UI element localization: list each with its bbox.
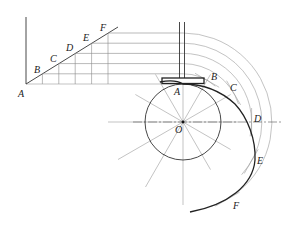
cam-profile-curve — [160, 81, 255, 212]
point-labels: A B C D E F A B C D E F O — [17, 22, 263, 211]
displacement-arc — [183, 53, 252, 136]
radial-line — [183, 122, 211, 170]
profile-label-f: F — [232, 200, 240, 211]
radial-lines — [108, 74, 238, 205]
disp-label-c: C — [50, 53, 57, 64]
radial-line — [183, 95, 231, 123]
profile-label-a: A — [173, 86, 181, 97]
disp-label-f: F — [99, 22, 107, 33]
disp-label-a: A — [17, 88, 25, 99]
disp-label-d: D — [65, 42, 74, 53]
radial-line — [118, 122, 183, 160]
profile-label-d: D — [253, 113, 262, 124]
profile-label-c: C — [230, 82, 237, 93]
radial-line — [183, 122, 231, 150]
radial-line — [135, 95, 183, 123]
tangent-lines — [195, 73, 258, 206]
disp-label-e: E — [82, 32, 89, 43]
center-label-o: O — [175, 124, 182, 135]
disp-label-b: B — [34, 64, 40, 75]
follower — [162, 22, 204, 84]
center-point — [182, 121, 185, 124]
displacement-arc — [183, 43, 262, 175]
profile-label-e: E — [256, 155, 263, 166]
displacement-line — [26, 27, 118, 84]
radial-line — [183, 74, 211, 122]
profile-label-b: B — [211, 71, 217, 82]
cam-construction-diagram: A B C D E F A B C D E F O — [0, 0, 295, 229]
